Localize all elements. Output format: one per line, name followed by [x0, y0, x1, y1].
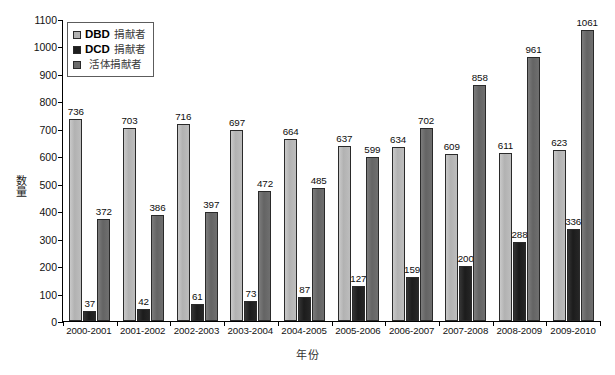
bar[interactable] [459, 266, 472, 321]
bar-column[interactable]: 73 [244, 20, 257, 321]
bar[interactable] [205, 212, 218, 321]
bar-value-label: 288 [511, 229, 527, 240]
x-axis-tick-label: 2007-2008 [439, 325, 493, 341]
legend-item-code: DBD [85, 29, 110, 41]
y-axis-tick-label: 900 [11, 69, 63, 81]
bar-column[interactable]: 634 [392, 20, 405, 321]
bar[interactable] [123, 128, 136, 321]
y-axis-tick-label: 0 [11, 316, 63, 328]
bar-column[interactable]: 159 [406, 20, 419, 321]
bar-value-label: 42 [138, 296, 149, 307]
bar-value-label: 61 [192, 291, 203, 302]
legend-item[interactable]: DCD捐献者 [73, 42, 146, 57]
bar[interactable] [191, 304, 204, 321]
bar-column[interactable]: 397 [205, 20, 218, 321]
x-axis-tick-label: 2001-2002 [116, 325, 170, 341]
bar-chart: 数量 010020030040050060070080090010001100 … [0, 0, 615, 375]
bar-column[interactable]: 697 [230, 20, 243, 321]
bar-value-label: 485 [311, 175, 327, 186]
legend-swatch-icon [73, 31, 81, 39]
x-axis-tick-label: 2009-2010 [546, 325, 600, 341]
bar-column[interactable]: 599 [366, 20, 379, 321]
bar[interactable] [69, 119, 82, 321]
bar[interactable] [392, 147, 405, 321]
x-axis-tick-label: 2003-2004 [223, 325, 277, 341]
bar-column[interactable]: 200 [459, 20, 472, 321]
bar-group: 637127599 [332, 20, 386, 321]
x-axis-tick-label: 2008-2009 [492, 325, 546, 341]
bar[interactable] [352, 286, 365, 321]
bar[interactable] [151, 215, 164, 321]
bar-column[interactable]: 127 [352, 20, 365, 321]
bar-value-label: 599 [364, 144, 380, 155]
legend-item[interactable]: DBD捐献者 [73, 27, 146, 42]
bar-value-label: 634 [390, 134, 406, 145]
bar-value-label: 664 [283, 126, 299, 137]
bar-value-label: 200 [458, 253, 474, 264]
bar[interactable] [284, 139, 297, 321]
bar-column[interactable]: 609 [445, 20, 458, 321]
bar-value-label: 623 [551, 137, 567, 148]
bar-column[interactable]: 472 [258, 20, 271, 321]
plot-area: 010020030040050060070080090010001100 736… [62, 20, 600, 322]
bar[interactable] [553, 150, 566, 321]
bar-value-label: 716 [175, 111, 191, 122]
bar[interactable] [137, 309, 150, 321]
bar-value-label: 637 [336, 133, 352, 144]
bar-group: 609200858 [439, 20, 493, 321]
bar[interactable] [298, 297, 311, 321]
x-axis-tick-label: 2006-2007 [385, 325, 439, 341]
bar[interactable] [499, 153, 512, 321]
bar[interactable] [258, 191, 271, 321]
bar[interactable] [338, 146, 351, 321]
bar[interactable] [244, 301, 257, 321]
bar[interactable] [97, 219, 110, 321]
chart-legend: DBD捐献者DCD捐献者活体捐献者 [67, 22, 154, 77]
bar[interactable] [312, 188, 325, 321]
legend-swatch-icon [73, 46, 81, 54]
y-axis-tick-label: 800 [11, 96, 63, 108]
bar[interactable] [406, 277, 419, 321]
bar-value-label: 73 [246, 288, 257, 299]
bar-value-label: 697 [229, 117, 245, 128]
bar[interactable] [230, 130, 243, 321]
bar-value-label: 386 [150, 202, 166, 213]
bar[interactable] [513, 242, 526, 321]
bar-column[interactable]: 623 [553, 20, 566, 321]
bar[interactable] [445, 154, 458, 321]
bar[interactable] [473, 85, 486, 321]
bar[interactable] [366, 157, 379, 321]
bar-group: 6233361061 [546, 20, 600, 321]
bar-value-label: 397 [203, 199, 219, 210]
y-axis-tick-label: 500 [11, 179, 63, 191]
bar-column[interactable]: 87 [298, 20, 311, 321]
legend-item-label: 捐献者 [114, 29, 146, 40]
bar-group: 634159702 [385, 20, 439, 321]
bar-column[interactable]: 288 [513, 20, 526, 321]
bar-column[interactable]: 485 [312, 20, 325, 321]
bar-column[interactable]: 961 [527, 20, 540, 321]
bar[interactable] [567, 229, 580, 321]
bar-column[interactable]: 637 [338, 20, 351, 321]
bar[interactable] [420, 128, 433, 321]
legend-item-label: 活体捐献者 [89, 59, 142, 70]
bar-value-label: 159 [404, 264, 420, 275]
bar-column[interactable]: 61 [191, 20, 204, 321]
bar-column[interactable]: 858 [473, 20, 486, 321]
bar-column[interactable]: 716 [177, 20, 190, 321]
bar-column[interactable]: 702 [420, 20, 433, 321]
bar-column[interactable]: 611 [499, 20, 512, 321]
bar[interactable] [83, 311, 96, 321]
bar[interactable] [177, 124, 190, 321]
x-axis-tick-mark [600, 321, 601, 326]
bar[interactable] [581, 30, 594, 321]
bar-column[interactable]: 1061 [581, 20, 594, 321]
bar[interactable] [527, 57, 540, 321]
bar-column[interactable]: 336 [567, 20, 580, 321]
legend-item-label: 捐献者 [114, 44, 146, 55]
bar-column[interactable]: 664 [284, 20, 297, 321]
legend-swatch-icon [73, 61, 81, 69]
legend-item[interactable]: 活体捐献者 [73, 57, 146, 72]
bar-value-label: 609 [444, 141, 460, 152]
bar-value-label: 37 [84, 298, 95, 309]
